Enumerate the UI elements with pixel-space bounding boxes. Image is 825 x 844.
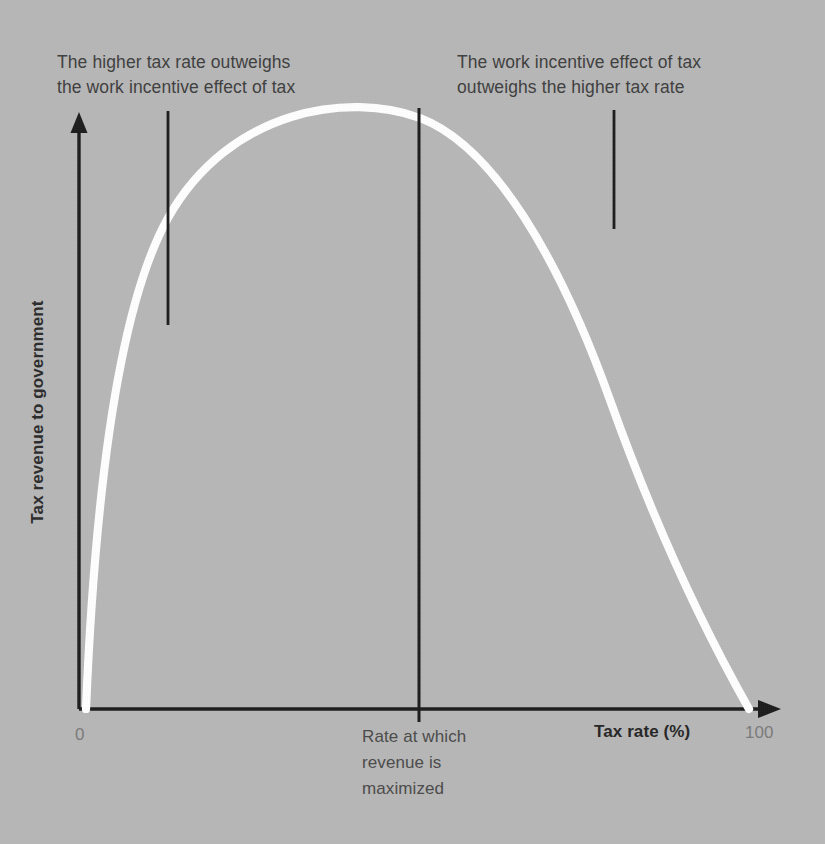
plot-area	[0, 0, 825, 844]
annotation-right-text: The work incentive effect of tax outweig…	[457, 50, 701, 100]
revenue-max-label: Rate at which revenue is maximized	[362, 724, 466, 802]
laffer-curve-figure: The higher tax rate outweighs the work i…	[0, 0, 825, 844]
x-tick-label-0: 0	[75, 725, 84, 745]
x-axis-label: Tax rate (%)	[594, 722, 690, 742]
y-axis-label: Tax revenue to government	[28, 252, 48, 572]
x-tick-label-100: 100	[745, 723, 773, 743]
x-axis	[79, 700, 781, 718]
annotation-left-text: The higher tax rate outweighs the work i…	[57, 50, 295, 100]
y-axis	[71, 112, 88, 709]
